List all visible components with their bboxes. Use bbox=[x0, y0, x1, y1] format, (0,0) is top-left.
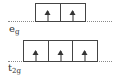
t2g-orbital-1 bbox=[24, 41, 49, 61]
t2g-label: t2g bbox=[8, 63, 21, 75]
eg-orbital-box bbox=[35, 3, 86, 22]
spin-up-arrow-icon bbox=[85, 51, 86, 61]
spin-up-arrow-icon bbox=[48, 11, 49, 21]
eg-orbital-1 bbox=[36, 4, 61, 21]
spin-up-arrow-icon bbox=[35, 51, 36, 61]
eg-orbital-2 bbox=[61, 4, 85, 21]
eg-label: eg bbox=[9, 24, 19, 36]
t2g-orbital-2 bbox=[49, 41, 74, 61]
t2g-orbital-box bbox=[23, 40, 98, 62]
spin-up-arrow-icon bbox=[60, 51, 61, 61]
t2g-orbital-3 bbox=[73, 41, 97, 61]
spin-up-arrow-icon bbox=[73, 11, 74, 21]
